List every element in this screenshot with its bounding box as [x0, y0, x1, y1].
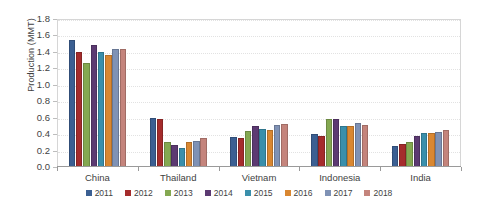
bar-india-2015[interactable] [421, 133, 427, 167]
legend-swatch-icon [165, 190, 171, 196]
legend-label: 2013 [174, 188, 193, 198]
bar-group [380, 19, 461, 167]
y-tick-label: 0.8 [37, 95, 50, 106]
legend: 20112012201320142015201620172018 [0, 188, 478, 198]
x-tick-mark [461, 167, 462, 171]
legend-item-2016[interactable]: 2016 [285, 188, 313, 198]
legend-swatch-icon [325, 190, 331, 196]
x-axis-label: Vietnam [219, 172, 300, 183]
bar-thailand-2014[interactable] [171, 145, 177, 167]
bar-china-2012[interactable] [76, 52, 82, 167]
bar-indonesia-2015[interactable] [340, 126, 346, 167]
bar-group [219, 19, 300, 167]
bar-indonesia-2017[interactable] [355, 123, 361, 167]
bar-india-2013[interactable] [406, 142, 412, 167]
legend-swatch-icon [285, 190, 291, 196]
bar-group-bars [230, 19, 288, 167]
y-tick-label: 0.0 [37, 161, 50, 172]
bar-group-bars [311, 19, 369, 167]
legend-item-2017[interactable]: 2017 [325, 188, 353, 198]
bar-vietnam-2017[interactable] [274, 125, 280, 167]
bar-thailand-2017[interactable] [193, 141, 199, 167]
x-axis-label: India [380, 172, 461, 183]
bar-indonesia-2018[interactable] [362, 125, 368, 167]
bar-thailand-2015[interactable] [179, 148, 185, 167]
legend-swatch-icon [364, 190, 370, 196]
bar-india-2014[interactable] [414, 136, 420, 167]
legend-swatch-icon [245, 190, 251, 196]
legend-swatch-icon [86, 190, 92, 196]
bar-thailand-2016[interactable] [186, 142, 192, 167]
legend-label: 2014 [214, 188, 233, 198]
x-axis-label: China [57, 172, 138, 183]
bar-india-2018[interactable] [443, 130, 449, 167]
bar-vietnam-2015[interactable] [259, 129, 265, 167]
bar-thailand-2018[interactable] [200, 138, 206, 167]
y-tick-label: 1.4 [37, 46, 50, 57]
bar-vietnam-2011[interactable] [230, 137, 236, 167]
bar-vietnam-2013[interactable] [245, 131, 251, 167]
y-tick-label: 0.4 [37, 128, 50, 139]
bar-indonesia-2014[interactable] [333, 119, 339, 168]
bar-vietnam-2012[interactable] [238, 138, 244, 167]
bar-thailand-2012[interactable] [157, 119, 163, 168]
legend-item-2018[interactable]: 2018 [364, 188, 392, 198]
bar-vietnam-2018[interactable] [281, 124, 287, 167]
legend-label: 2012 [134, 188, 153, 198]
bar-group [57, 19, 138, 167]
legend-label: 2016 [294, 188, 313, 198]
y-tick-label: 1.8 [37, 13, 50, 24]
bar-thailand-2013[interactable] [164, 142, 170, 167]
bar-india-2012[interactable] [399, 144, 405, 167]
x-axis-label: Indonesia [299, 172, 380, 183]
legend-label: 2011 [95, 188, 113, 198]
legend-item-2014[interactable]: 2014 [205, 188, 233, 198]
legend-label: 2015 [254, 188, 273, 198]
bar-indonesia-2016[interactable] [347, 126, 353, 167]
legend-label: 2018 [373, 188, 392, 198]
x-tick-mark [219, 167, 220, 171]
bar-china-2013[interactable] [83, 63, 89, 167]
bar-china-2017[interactable] [112, 49, 118, 167]
bar-china-2016[interactable] [105, 55, 111, 167]
legend-swatch-icon [205, 190, 211, 196]
bar-chart: Production (MMT) 1.81.61.41.21.00.80.60.… [0, 0, 478, 208]
bar-thailand-2011[interactable] [150, 118, 156, 167]
x-axis-labels: ChinaThailandVietnamIndonesiaIndia [57, 172, 461, 183]
y-tick-label: 0.2 [37, 145, 50, 156]
bar-china-2015[interactable] [98, 52, 104, 167]
bar-group-bars [68, 19, 126, 167]
legend-swatch-icon [125, 190, 131, 196]
bar-vietnam-2016[interactable] [267, 130, 273, 167]
x-tick-mark [299, 167, 300, 171]
x-axis-label: Thailand [138, 172, 219, 183]
bar-group-bars [392, 19, 450, 167]
y-tick-label: 0.6 [37, 112, 50, 123]
bar-china-2011[interactable] [69, 40, 75, 167]
bar-group-bars [149, 19, 207, 167]
x-tick-mark [138, 167, 139, 171]
bar-vietnam-2014[interactable] [252, 126, 258, 167]
bar-group [299, 19, 380, 167]
legend-item-2013[interactable]: 2013 [165, 188, 193, 198]
legend-item-2012[interactable]: 2012 [125, 188, 153, 198]
y-tick-label: 1.6 [37, 29, 50, 40]
bar-groups [57, 19, 461, 167]
bar-india-2011[interactable] [392, 146, 398, 167]
bar-china-2014[interactable] [91, 45, 97, 167]
legend-item-2015[interactable]: 2015 [245, 188, 273, 198]
y-tick-label: 1.0 [37, 79, 50, 90]
x-tick-mark [380, 167, 381, 171]
bar-indonesia-2013[interactable] [326, 119, 332, 167]
bar-indonesia-2012[interactable] [318, 136, 324, 167]
bar-india-2017[interactable] [435, 132, 441, 167]
y-tick-label: 1.2 [37, 62, 50, 73]
bar-indonesia-2011[interactable] [311, 134, 317, 167]
legend-label: 2017 [334, 188, 353, 198]
bar-group [138, 19, 219, 167]
bar-india-2016[interactable] [428, 133, 434, 167]
bar-china-2018[interactable] [120, 49, 126, 167]
legend-item-2011[interactable]: 2011 [86, 188, 113, 198]
y-axis: 1.81.61.41.21.00.80.60.40.20.0 [0, 19, 57, 167]
x-tick-mark [57, 167, 58, 171]
